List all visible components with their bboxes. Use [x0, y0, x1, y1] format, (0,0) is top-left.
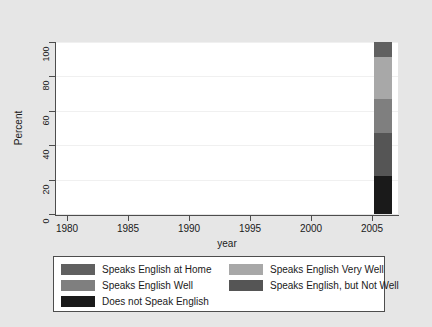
bar-segment-3[interactable] — [374, 57, 392, 98]
x-tick-mark-1985 — [128, 216, 129, 221]
x-tick-mark-1990 — [189, 216, 190, 221]
legend-swatch-icon — [229, 264, 263, 275]
legend-swatch-icon — [61, 264, 95, 275]
gridline-40 — [56, 145, 398, 146]
y-tick-label-80: 80 — [42, 81, 51, 91]
legend-entry-left-2[interactable]: Does not Speak English — [61, 294, 231, 309]
x-tick-label-1995: 1995 — [227, 223, 273, 235]
x-tick-mark-2005 — [372, 216, 373, 221]
legend-entry-left-1[interactable]: Speaks English Well — [61, 278, 231, 293]
legend-label: Does not Speak English — [102, 296, 209, 308]
legend-column-left: Speaks English at HomeSpeaks English Wel… — [61, 262, 231, 310]
x-axis-line — [55, 215, 399, 216]
bar-segment-1[interactable] — [374, 133, 392, 176]
legend-entry-right-1[interactable]: Speaks English, but Not Well — [229, 278, 384, 293]
chart-figure: Percent 100 80 60 40 20 0 1980 1985 1990… — [0, 0, 432, 327]
legend-swatch-icon — [61, 296, 95, 307]
bar-segment-2[interactable] — [374, 99, 392, 133]
y-tick-mark-40 — [49, 145, 55, 146]
x-tick-label-1980: 1980 — [44, 223, 90, 235]
x-tick-mark-1995 — [250, 216, 251, 221]
legend-entry-left-0[interactable]: Speaks English at Home — [61, 262, 231, 277]
legend-swatch-icon — [229, 280, 263, 291]
x-tick-label-1990: 1990 — [166, 223, 212, 235]
legend-label: Speaks English Well — [102, 280, 193, 292]
y-tick-mark-100 — [49, 42, 55, 43]
y-tick-label-100: 100 — [42, 47, 51, 62]
y-tick-mark-20 — [49, 180, 55, 181]
x-tick-label-1985: 1985 — [105, 223, 151, 235]
y-tick-label-40: 40 — [42, 150, 51, 160]
chart-legend: Speaks English at HomeSpeaks English Wel… — [53, 256, 385, 312]
x-tick-label-2000: 2000 — [288, 223, 334, 235]
stacked-bar-2005[interactable] — [374, 42, 392, 214]
gridline-60 — [56, 111, 398, 112]
x-axis-title: year — [56, 238, 398, 250]
bar-segment-0[interactable] — [374, 176, 392, 214]
legend-label: Speaks English at Home — [102, 264, 212, 276]
y-axis-line — [55, 42, 56, 215]
y-tick-label-60: 60 — [42, 116, 51, 126]
legend-swatch-icon — [61, 280, 95, 291]
x-tick-label-2005: 2005 — [349, 223, 395, 235]
legend-entry-right-0[interactable]: Speaks English Very Well — [229, 262, 384, 277]
plot-area — [56, 42, 398, 214]
legend-label: Speaks English Very Well — [270, 264, 384, 276]
legend-label: Speaks English, but Not Well — [270, 280, 399, 292]
gridline-20 — [56, 180, 398, 181]
y-axis-title: Percent — [12, 42, 26, 214]
gridline-100 — [56, 42, 398, 43]
y-tick-mark-60 — [49, 111, 55, 112]
x-tick-mark-1980 — [67, 216, 68, 221]
y-tick-label-20: 20 — [42, 185, 51, 195]
y-tick-mark-80 — [49, 76, 55, 77]
bar-segment-4[interactable] — [374, 42, 392, 57]
x-tick-mark-2000 — [311, 216, 312, 221]
legend-column-right: Speaks English Very WellSpeaks English, … — [229, 262, 384, 294]
gridline-80 — [56, 76, 398, 77]
